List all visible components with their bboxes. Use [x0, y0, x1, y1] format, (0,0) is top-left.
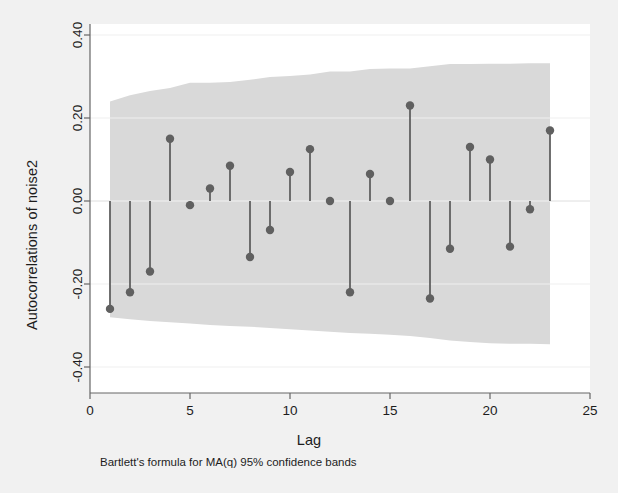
- y-axis-title: Autocorrelations of noise2: [24, 160, 40, 330]
- y-tick-label: 0.00: [70, 188, 85, 214]
- data-point-marker: [186, 201, 194, 209]
- data-point-marker: [486, 155, 494, 163]
- data-point-marker: [206, 184, 214, 192]
- data-point-marker: [546, 126, 554, 134]
- x-tick-label: 20: [482, 403, 497, 418]
- data-point-marker: [126, 288, 134, 296]
- y-tick-label: -0.20: [70, 269, 85, 300]
- data-point-marker: [106, 305, 114, 313]
- y-axis-ticks: -0.40-0.200.000.200.40: [70, 22, 90, 383]
- data-point-marker: [426, 294, 434, 302]
- acf-figure: -0.40-0.200.000.200.40 0510152025 Autoco…: [0, 0, 618, 493]
- data-point-marker: [306, 145, 314, 153]
- data-point-marker: [346, 288, 354, 296]
- x-tick-label: 0: [86, 403, 94, 418]
- data-point-marker: [226, 162, 234, 170]
- data-point-marker: [526, 205, 534, 213]
- data-point-marker: [366, 170, 374, 178]
- data-point-marker: [166, 135, 174, 143]
- x-axis-ticks: 0510152025: [86, 393, 597, 418]
- y-tick-label: -0.40: [70, 352, 85, 383]
- x-tick-label: 15: [382, 403, 397, 418]
- data-point-marker: [406, 101, 414, 109]
- data-point-marker: [466, 143, 474, 151]
- data-point-marker: [386, 197, 394, 205]
- x-axis-title: Lag: [0, 432, 618, 448]
- data-point-marker: [506, 242, 514, 250]
- x-tick-label: 10: [282, 403, 297, 418]
- data-point-marker: [146, 267, 154, 275]
- y-tick-label: 0.20: [70, 105, 85, 131]
- data-point-marker: [326, 197, 334, 205]
- data-point-marker: [286, 168, 294, 176]
- x-tick-label: 5: [186, 403, 194, 418]
- confidence-band-note: Bartlett's formula for MA(q) 95% confide…: [100, 456, 357, 468]
- y-tick-label: 0.40: [70, 22, 85, 48]
- data-point-marker: [446, 245, 454, 253]
- data-point-marker: [246, 253, 254, 261]
- data-point-marker: [266, 226, 274, 234]
- acf-plot-area: -0.40-0.200.000.200.40 0510152025: [0, 0, 618, 493]
- x-tick-label: 25: [582, 403, 597, 418]
